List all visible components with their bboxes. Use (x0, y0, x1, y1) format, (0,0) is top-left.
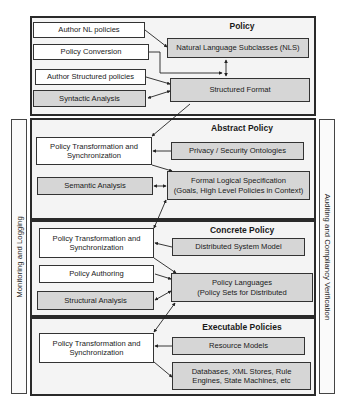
syntactic-analysis-box: Syntactic Analysis (33, 90, 146, 107)
monitoring-logging-panel: Monitoring and Logging (11, 119, 27, 394)
policy-transformation-sync-box-executable: Policy Transformation and Synchronizatio… (39, 333, 154, 363)
section-title-executable-policies: Executable Policies (182, 322, 302, 332)
formal-logical-spec-line1: Formal Logical Specification (191, 176, 286, 186)
policy-languages-line2: (Policy Sets for Distributed (197, 288, 286, 298)
policy-transformation-sync-box-concrete: Policy Transformation and Synchronizatio… (39, 228, 154, 258)
policy-conversion-box: Policy Conversion (33, 44, 149, 60)
databases-line2: Engines, State Machines, etc (192, 376, 290, 386)
semantic-analysis-box: Semantic Analysis (37, 177, 153, 195)
section-title-policy: Policy (182, 21, 302, 31)
section-title-abstract-policy: Abstract Policy (182, 123, 302, 133)
policy-languages-box: Policy Languages (Policy Sets for Distri… (171, 273, 313, 302)
databases-line1: Databases, XML Stores, Rule (192, 367, 292, 377)
section-abstract-policy: Abstract Policy (30, 118, 316, 220)
structural-analysis-box: Structural Analysis (37, 291, 154, 310)
formal-logical-spec-line2: (Goals, High Level Policies in Context) (174, 186, 304, 196)
policy-languages-line1: Policy Languages (212, 278, 272, 288)
databases-xml-stores-box: Databases, XML Stores, Rule Engines, Sta… (172, 362, 311, 390)
section-title-concrete-policy: Concrete Policy (182, 225, 302, 235)
policy-transformation-sync-box-abstract: Policy Transformation and Synchronizatio… (36, 137, 152, 165)
distributed-system-model-box: Distributed System Model (172, 238, 305, 256)
structured-format-box: Structured Format (170, 78, 310, 102)
resource-models-box: Resource Models (172, 337, 305, 355)
auditing-compliancy-label: Auditing and Compliancy Verification (323, 193, 332, 320)
auditing-compliancy-panel: Auditing and Compliancy Verification (319, 119, 335, 394)
formal-logical-specification-box: Formal Logical Specification (Goals, Hig… (167, 171, 310, 200)
author-structured-policies-box: Author Structured policies (35, 69, 146, 85)
privacy-security-ontologies-box: Privacy / Security Ontologies (171, 142, 304, 160)
author-nl-policies-box: Author NL policies (33, 22, 145, 38)
monitoring-logging-label: Monitoring and Logging (15, 216, 24, 298)
nls-box: Natural Language Subclasses (NLS) (167, 38, 309, 58)
policy-authoring-box: Policy Authoring (39, 265, 154, 283)
